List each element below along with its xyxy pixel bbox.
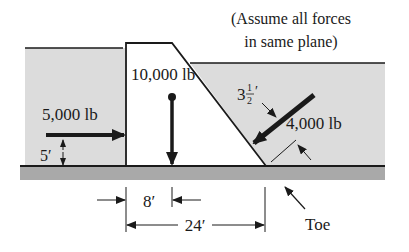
offset-whole: 3 bbox=[237, 85, 246, 104]
base-dimensions: 8′ 24′ bbox=[97, 187, 265, 235]
ground-strip bbox=[20, 166, 385, 180]
assumption-note: (Assume all forces in same plane) bbox=[231, 10, 351, 51]
offset-unit: ′ bbox=[255, 84, 258, 99]
toe-pointer-arrow bbox=[285, 187, 305, 209]
weight-force-label: 10,000 lb bbox=[131, 65, 195, 84]
dim-8-label: 8′ bbox=[143, 192, 155, 211]
note-line-2: in same plane) bbox=[244, 33, 337, 51]
toe-label: Toe bbox=[305, 215, 330, 234]
offset-denominator: 2 bbox=[247, 95, 252, 106]
inclined-force-label: 4,000 lb bbox=[286, 114, 342, 133]
dim-24-label: 24′ bbox=[185, 216, 206, 235]
horizontal-force-height-label: 5′ bbox=[40, 147, 52, 164]
dam-force-diagram: (Assume all forces in same plane) 5,000 … bbox=[0, 0, 409, 252]
toe-callout: Toe bbox=[285, 187, 330, 234]
horizontal-force-label: 5,000 lb bbox=[42, 105, 98, 124]
offset-numerator: 1 bbox=[247, 82, 252, 93]
note-line-1: (Assume all forces bbox=[231, 10, 351, 28]
